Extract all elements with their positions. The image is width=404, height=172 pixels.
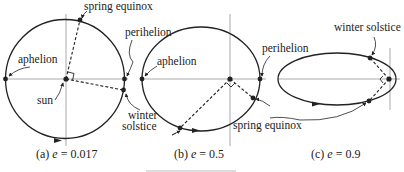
caption-c: (c) e = 0.9 — [311, 147, 360, 161]
aphelion-dot — [3, 77, 8, 82]
winter-solstice-dot — [368, 56, 373, 61]
direction-arrow-icon — [312, 102, 320, 107]
sun-dot — [63, 76, 68, 81]
cropped-figure-caption — [146, 170, 236, 172]
sun-dot — [386, 76, 391, 81]
spring-equinox-dot — [78, 18, 83, 23]
sun-to-solstice-line — [66, 79, 123, 90]
caption-a: (a) e = 0.017 — [36, 147, 97, 161]
sun-to-equinox-line — [230, 79, 253, 98]
label-aphelion: aphelion — [18, 53, 58, 66]
label-winter-solstice: winter solstice — [334, 21, 401, 33]
sun-to-solstice-line — [180, 79, 230, 128]
right-angle-marker — [227, 83, 235, 87]
winter-solstice-dot — [121, 88, 126, 93]
spring-equinox-dot — [251, 96, 256, 101]
aphelion-dot — [140, 77, 145, 82]
label-perihelion: perihelion — [262, 42, 309, 55]
direction-arrow-icon — [192, 128, 200, 133]
label-solstice: solstice — [122, 120, 157, 132]
label-sun: sun — [37, 94, 53, 106]
sun-to-equinox-line — [66, 20, 80, 79]
panel-a: spring equinox perihelion aphelion sun w… — [3, 0, 172, 161]
sun-dot — [227, 76, 232, 81]
right-angle-marker — [380, 76, 383, 83]
caption-b: (b) e = 0.5 — [174, 147, 224, 161]
perihelion-dot — [258, 77, 263, 82]
label-aphelion: aphelion — [157, 55, 197, 68]
spring-equinox-dot — [367, 99, 372, 104]
perihelion-dot — [122, 77, 127, 82]
orbit-eccentricity-figure: spring equinox perihelion aphelion sun w… — [0, 0, 404, 172]
winter-solstice-dot — [178, 126, 183, 131]
label-perihelion: perihelion — [125, 26, 172, 39]
label-spring-equinox: spring equinox — [233, 119, 302, 132]
label-spring-equinox: spring equinox — [84, 0, 153, 13]
